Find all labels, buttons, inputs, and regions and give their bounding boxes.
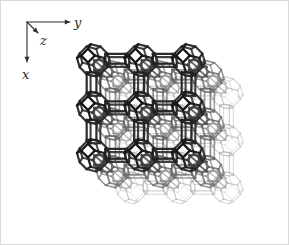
zeolite-figure-svg: yxz (0, 0, 289, 245)
axis-label-x: x (22, 67, 30, 82)
axis-label-z: z (39, 33, 47, 48)
axis-label-y: y (73, 15, 82, 30)
zeolite-figure-panel: yxz (0, 0, 289, 245)
